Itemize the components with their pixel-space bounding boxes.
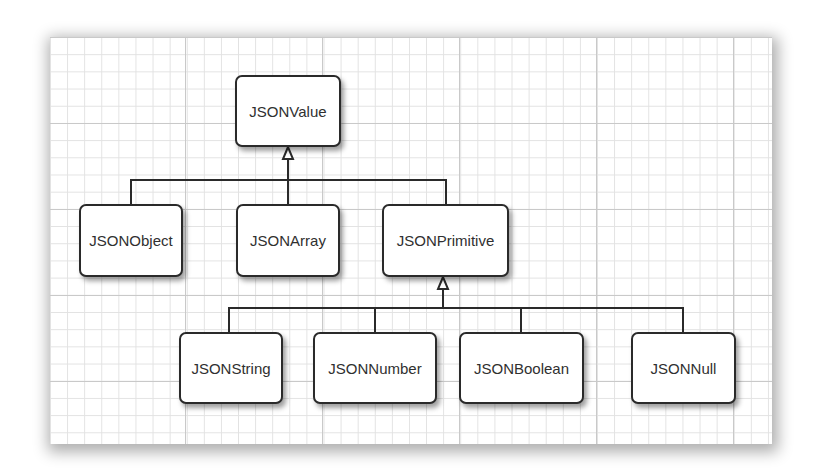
connector-jsonstring	[229, 308, 683, 332]
inheritance-arrowhead-icon	[438, 277, 448, 289]
class-box-jsonvalue: JSONValue	[235, 75, 341, 147]
class-box-jsonstring: JSONString	[179, 332, 283, 404]
class-box-jsonobject: JSONObject	[79, 204, 183, 277]
class-label: JSONArray	[250, 232, 326, 249]
inheritance-arrowhead-icon	[283, 147, 293, 159]
class-label: JSONString	[191, 360, 270, 377]
class-box-jsonprimitive: JSONPrimitive	[382, 204, 509, 277]
class-box-jsonarray: JSONArray	[236, 204, 340, 277]
class-label: JSONBoolean	[474, 360, 569, 377]
class-label: JSONNull	[651, 360, 717, 377]
class-box-jsonboolean: JSONBoolean	[459, 332, 584, 404]
class-label: JSONNumber	[328, 360, 421, 377]
class-box-jsonnull: JSONNull	[631, 332, 736, 404]
class-label: JSONValue	[249, 103, 326, 120]
class-label: JSONPrimitive	[397, 232, 495, 249]
class-box-jsonnumber: JSONNumber	[313, 332, 437, 404]
class-label: JSONObject	[89, 232, 172, 249]
